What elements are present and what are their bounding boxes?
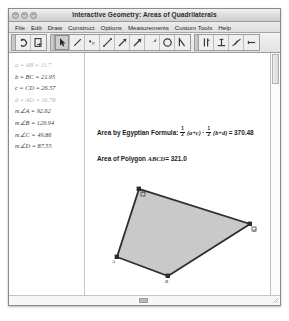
vertex-point-c[interactable]: [248, 222, 252, 226]
vertex-label-b: B: [165, 279, 168, 284]
quadrilateral-figure[interactable]: A B C D: [85, 53, 271, 305]
measurement-angle-b[interactable]: m∠B = 129.94: [15, 117, 84, 129]
undo-button[interactable]: [16, 35, 31, 50]
horizontal-scrollbar[interactable]: [9, 295, 280, 305]
measurement-side-c[interactable]: c = CD = 26.57: [15, 82, 84, 94]
perpendicular-button[interactable]: [214, 35, 229, 50]
ray-tool-button[interactable]: [115, 35, 130, 50]
circle-icon: [162, 37, 173, 48]
measure-length-icon: [246, 37, 257, 48]
pointer-tool-button[interactable]: [55, 35, 70, 50]
toolbar-group-drawing: P: [50, 34, 191, 51]
window-title: Interactive Geometry: Areas of Quadrilat…: [9, 11, 280, 18]
toolbar: P: [9, 33, 280, 53]
perpendicular-icon: [216, 37, 227, 48]
point-p-icon: P: [87, 37, 98, 48]
redo-button[interactable]: [31, 35, 46, 50]
ray-icon: [117, 37, 128, 48]
segment-tool-button[interactable]: [70, 35, 85, 50]
vertex-point-a[interactable]: [115, 255, 119, 259]
line-tool-button[interactable]: [100, 35, 115, 50]
filled-vector-icon: [147, 37, 158, 48]
menu-item-custom-tools[interactable]: Custom Tools: [172, 24, 215, 31]
filled-vector-tool-button[interactable]: [145, 35, 160, 50]
vertex-label-c: C: [253, 228, 256, 233]
menu-item-measurements[interactable]: Measurements: [125, 24, 172, 31]
parallel-lines-button[interactable]: [199, 35, 214, 50]
vector-icon: [132, 37, 143, 48]
parallel-lines-icon: [201, 37, 212, 48]
vertical-scrollbar-thumb[interactable]: [272, 54, 279, 84]
menu-item-file[interactable]: File: [12, 24, 28, 31]
measurement-side-a[interactable]: a = AB = 11.7: [15, 59, 84, 71]
angle-icon: [177, 37, 188, 48]
quadrilateral-svg[interactable]: [85, 53, 271, 305]
measurement-angle-d[interactable]: m∠D = 87.55: [15, 140, 84, 152]
angle-tool-button[interactable]: [175, 35, 190, 50]
toolbar-group-history: [11, 34, 47, 51]
vector-tool-button[interactable]: [130, 35, 145, 50]
vertex-point-b[interactable]: [166, 274, 170, 278]
line-icon: [102, 37, 113, 48]
title-bar: Interactive Geometry: Areas of Quadrilat…: [9, 9, 280, 22]
menu-item-edit[interactable]: Edit: [28, 24, 45, 31]
toolbar-group-constructions: [194, 34, 260, 51]
resize-grip-icon[interactable]: [272, 297, 279, 304]
vertex-label-d: D: [142, 189, 146, 194]
menu-item-help[interactable]: Help: [215, 24, 234, 31]
measurement-side-b[interactable]: b = BC = 21.95: [15, 71, 84, 83]
undo-arrow-icon: [18, 37, 29, 48]
measurement-angle-a[interactable]: m∠A = 92.62: [15, 105, 84, 117]
geometry-canvas[interactable]: a = AB = 11.7 b = BC = 21.95 c = CD = 26…: [9, 53, 280, 305]
quadrilateral-shape[interactable]: [117, 189, 250, 276]
application-window: Interactive Geometry: Areas of Quadrilat…: [8, 8, 281, 306]
measurement-side-d[interactable]: d = AD = 16.78: [15, 94, 84, 106]
vertex-point-d[interactable]: [137, 187, 141, 191]
menu-item-draw[interactable]: Draw: [45, 24, 65, 31]
segment-icon: [72, 37, 83, 48]
measurement-panel: a = AB = 11.7 b = BC = 21.95 c = CD = 26…: [9, 53, 85, 305]
circle-tool-button[interactable]: [160, 35, 175, 50]
midpoint-button[interactable]: [229, 35, 244, 50]
measurement-angle-c[interactable]: m∠C = 49.86: [15, 129, 84, 141]
pointer-arrow-icon: [57, 37, 68, 48]
menu-item-construct[interactable]: Construct: [65, 24, 97, 31]
menu-bar: File Edit Draw Construct Options Measure…: [9, 22, 280, 33]
vertex-label-a: A: [112, 259, 115, 264]
menu-item-options[interactable]: Options: [98, 24, 125, 31]
midpoint-icon: [231, 37, 242, 48]
horizontal-scrollbar-thumb[interactable]: [139, 298, 148, 303]
point-tool-button[interactable]: P: [85, 35, 100, 50]
vertical-scrollbar[interactable]: [270, 53, 280, 305]
measure-length-button[interactable]: [244, 35, 259, 50]
redo-page-icon: [33, 37, 44, 48]
svg-text:P: P: [91, 41, 94, 46]
